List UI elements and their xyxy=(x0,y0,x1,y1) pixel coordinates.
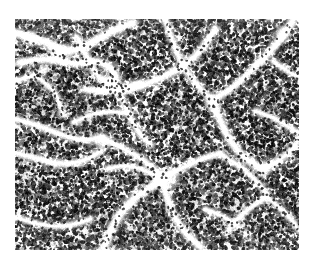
tissue-image xyxy=(15,19,299,250)
histopathology-micrograph xyxy=(15,19,299,250)
page-canvas xyxy=(0,0,314,266)
